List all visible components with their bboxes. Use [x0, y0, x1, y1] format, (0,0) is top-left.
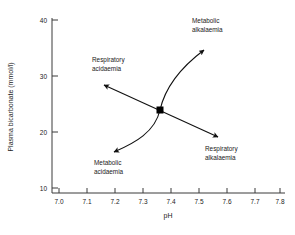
metabolic-alkalaemia-label-line1: Metabolic: [192, 17, 220, 24]
metabolic-alkalaemia-label-line2: alkalaemia: [192, 26, 223, 33]
x-tick-label-7-0: 7.0: [54, 198, 63, 205]
respiratory-alkalaemia-label: Respiratory alkalaemia: [205, 145, 238, 161]
metabolic-acidaemia-label-line1: Metabolic: [94, 159, 122, 166]
respiratory-alkalaemia-label-line1: Respiratory: [205, 145, 238, 153]
y-tick-label-20: 20: [40, 129, 48, 136]
y-tick-label-40: 40: [40, 17, 48, 24]
metabolic-acidaemia-label-line2: acidaemia: [94, 168, 124, 175]
x-tick-label-7-3: 7.3: [138, 198, 147, 205]
respiratory-alkalaemia-label-line2: alkalaemia: [205, 154, 236, 161]
chart-canvas: 40 30 20 10 7.0 7.1 7.2 7.3 7.4 7.5 7.6 …: [0, 0, 295, 235]
x-axis: 7.0 7.1 7.2 7.3 7.4 7.5 7.6 7.7 7.8: [52, 188, 285, 205]
y-tick-label-10: 10: [40, 185, 48, 192]
x-tick-label-7-6: 7.6: [222, 198, 231, 205]
x-tick-label-7-4: 7.4: [166, 198, 175, 205]
metabolic-alkalaemia-label: Metabolic alkalaemia: [192, 17, 223, 33]
respiratory-acidaemia-label: Respiratory acidaemia: [92, 56, 125, 72]
y-axis: 40 30 20 10: [40, 17, 58, 194]
metabolic-axis-arrow: [114, 50, 204, 152]
normal-reference-point: [157, 107, 164, 114]
y-tick-label-30: 30: [40, 73, 48, 80]
respiratory-acidaemia-label-line1: Respiratory: [92, 56, 125, 64]
x-tick-label-7-7: 7.7: [250, 198, 259, 205]
metabolic-acidaemia-label: Metabolic acidaemia: [94, 159, 124, 175]
x-tick-label-7-2: 7.2: [110, 198, 119, 205]
respiratory-acidaemia-label-line2: acidaemia: [92, 65, 122, 72]
y-axis-title: Plasma bicarbonate (mmol/l): [7, 62, 15, 151]
x-tick-label-7-1: 7.1: [82, 198, 91, 205]
x-tick-label-7-8: 7.8: [275, 198, 284, 205]
acid-base-chart: 40 30 20 10 7.0 7.1 7.2 7.3 7.4 7.5 7.6 …: [0, 0, 295, 235]
x-tick-label-7-5: 7.5: [194, 198, 203, 205]
x-axis-title: pH: [164, 212, 173, 220]
